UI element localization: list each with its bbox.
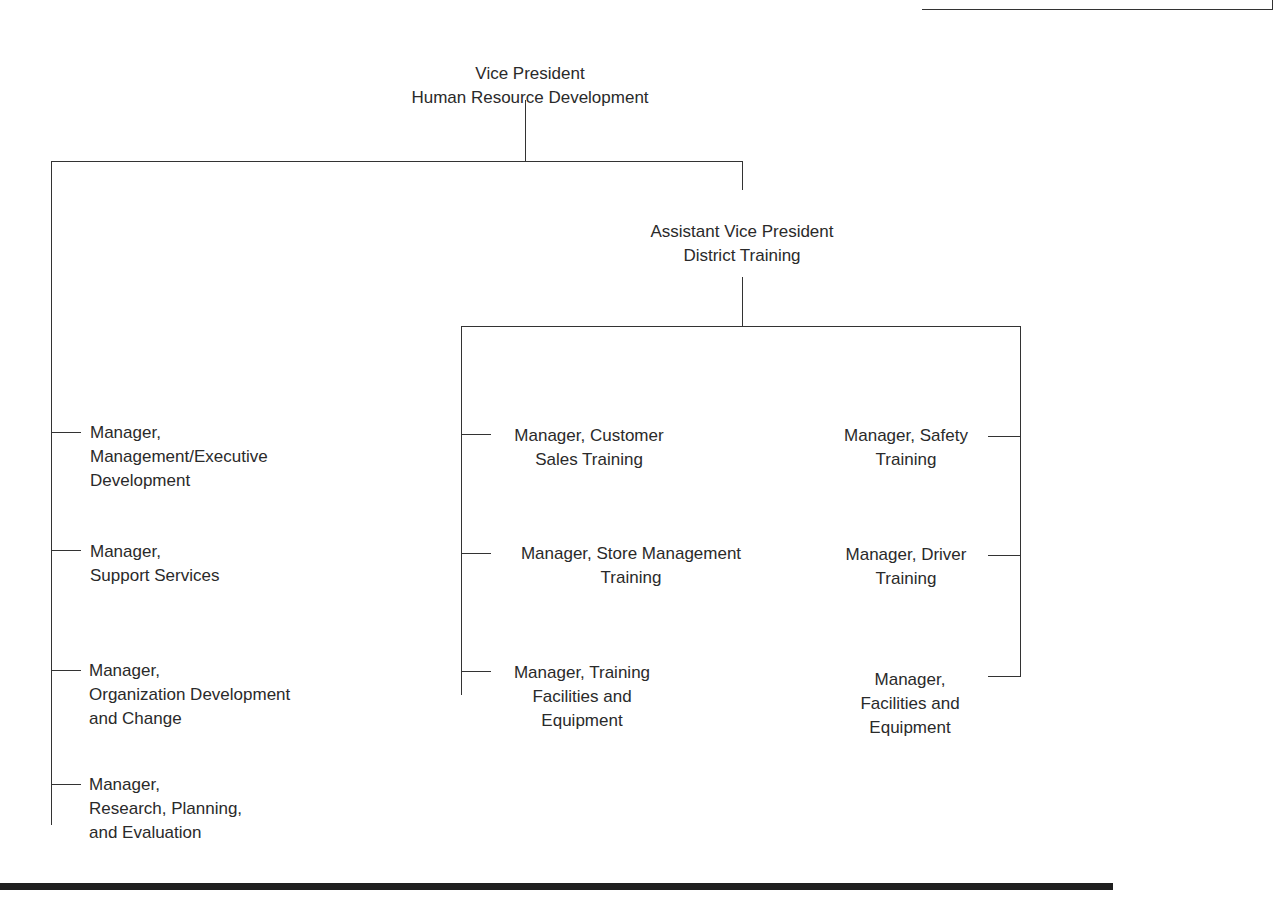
node-subtitle: District Training xyxy=(612,244,872,268)
connector-root-down xyxy=(525,100,526,162)
node-line: Manager, xyxy=(90,421,268,445)
node-line: Research, Planning, xyxy=(89,797,242,821)
node-line: Manager, Driver xyxy=(828,543,984,567)
node-manager-organization-development: Manager, Organization Development and Ch… xyxy=(89,659,290,731)
connector-avp-right-2 xyxy=(988,555,1021,556)
connector-left-3 xyxy=(51,670,81,671)
node-line: Management/Executive xyxy=(90,445,268,469)
connector-avp-right-spine xyxy=(1020,326,1021,677)
connector-left-2 xyxy=(51,550,81,551)
node-line: Manager, xyxy=(89,773,242,797)
connector-to-avp xyxy=(742,161,743,190)
node-line: Manager, Store Management xyxy=(494,542,768,566)
connector-avp-right-1 xyxy=(988,436,1021,437)
connector-left-1 xyxy=(51,432,81,433)
node-manager-facilities-equipment: Manager, Facilities and Equipment xyxy=(850,668,970,740)
node-line: Sales Training xyxy=(494,448,684,472)
node-line: Development xyxy=(90,469,268,493)
node-manager-store-management-training: Manager, Store Management Training xyxy=(494,542,768,590)
node-line: Manager, Customer xyxy=(494,424,684,448)
node-line: Training xyxy=(828,448,984,472)
connector-avp-right-3 xyxy=(988,676,1021,677)
node-line: Manager, xyxy=(90,540,219,564)
node-line: Facilities and xyxy=(494,685,670,709)
node-manager-training-facilities-equipment: Manager, Training Facilities and Equipme… xyxy=(494,661,670,733)
node-line: Manager, xyxy=(89,659,290,683)
node-vice-president: Vice President Human Resource Developmen… xyxy=(380,62,680,110)
node-line: Training xyxy=(828,567,984,591)
connector-avp-left-2 xyxy=(461,553,491,554)
node-manager-safety-training: Manager, Safety Training xyxy=(828,424,984,472)
bottom-rule xyxy=(0,883,1113,890)
node-line: and Evaluation xyxy=(89,821,242,845)
node-manager-driver-training: Manager, Driver Training xyxy=(828,543,984,591)
node-line: and Change xyxy=(89,707,290,731)
node-title: Vice President xyxy=(380,62,680,86)
node-line: Manager, Training xyxy=(494,661,670,685)
node-line: Support Services xyxy=(90,564,219,588)
node-line: Organization Development xyxy=(89,683,290,707)
node-line: Manager, Safety xyxy=(828,424,984,448)
connector-avp-left-1 xyxy=(461,434,491,435)
node-assistant-vice-president: Assistant Vice President District Traini… xyxy=(612,220,872,268)
connector-avp-left-3 xyxy=(461,671,491,672)
node-manager-customer-sales-training: Manager, Customer Sales Training xyxy=(494,424,684,472)
connector-avp-horizontal xyxy=(461,326,1021,327)
connector-avp-down xyxy=(742,277,743,327)
connector-root-horizontal xyxy=(51,161,743,162)
node-line: Equipment xyxy=(850,716,970,740)
connector-left-4 xyxy=(51,784,81,785)
node-manager-management-executive-development: Manager, Management/Executive Developmen… xyxy=(90,421,268,493)
connector-left-spine xyxy=(51,161,52,825)
node-line: Training xyxy=(494,566,768,590)
node-line: Manager, xyxy=(850,668,970,692)
node-subtitle: Human Resource Development xyxy=(380,86,680,110)
node-manager-support-services: Manager, Support Services xyxy=(90,540,219,588)
node-line: Equipment xyxy=(494,709,670,733)
node-title: Assistant Vice President xyxy=(612,220,872,244)
node-line: Facilities and xyxy=(850,692,970,716)
partial-box-fragment xyxy=(922,0,1273,10)
connector-avp-left-spine xyxy=(461,326,462,695)
node-manager-research-planning-evaluation: Manager, Research, Planning, and Evaluat… xyxy=(89,773,242,845)
